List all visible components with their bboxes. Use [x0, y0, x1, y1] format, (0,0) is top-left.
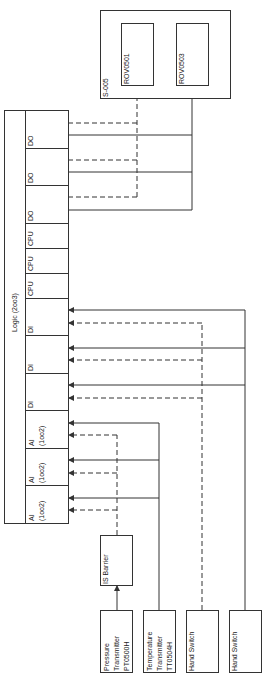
hand-switch-2-label: Hand Switch [231, 632, 239, 671]
module-label: DO [27, 211, 35, 222]
module-label: AI (1oo2) [27, 501, 47, 521]
module-label: DO [27, 136, 35, 147]
module-label: CPU [27, 256, 35, 271]
module-label: AI (1oo2) [27, 463, 47, 483]
s-005-group [100, 10, 231, 99]
hand-switch-1-label: Hand Switch [188, 632, 196, 671]
module-label: AI (1oo2) [27, 426, 47, 446]
module-label: CPU [27, 231, 35, 246]
is-barrier-label: IS Barrier [102, 554, 110, 584]
module-label: CPU [27, 281, 35, 296]
module-label: DO [27, 173, 35, 184]
logic-solver-title: Logic (2oo3) [11, 293, 19, 332]
module-label: DI [27, 326, 35, 333]
s-005-label: S-005 [102, 78, 110, 97]
module-label: DI [27, 364, 35, 371]
rov0503-label: ROV0503 [178, 53, 186, 84]
tt0504h-label: Temperature Transmitter TT0504H [145, 632, 175, 671]
module-label: DI [27, 401, 35, 408]
rov0501-label: ROV0501 [123, 53, 131, 84]
pt0500h-label: Pressure Transmitter PT0500H [102, 636, 132, 671]
